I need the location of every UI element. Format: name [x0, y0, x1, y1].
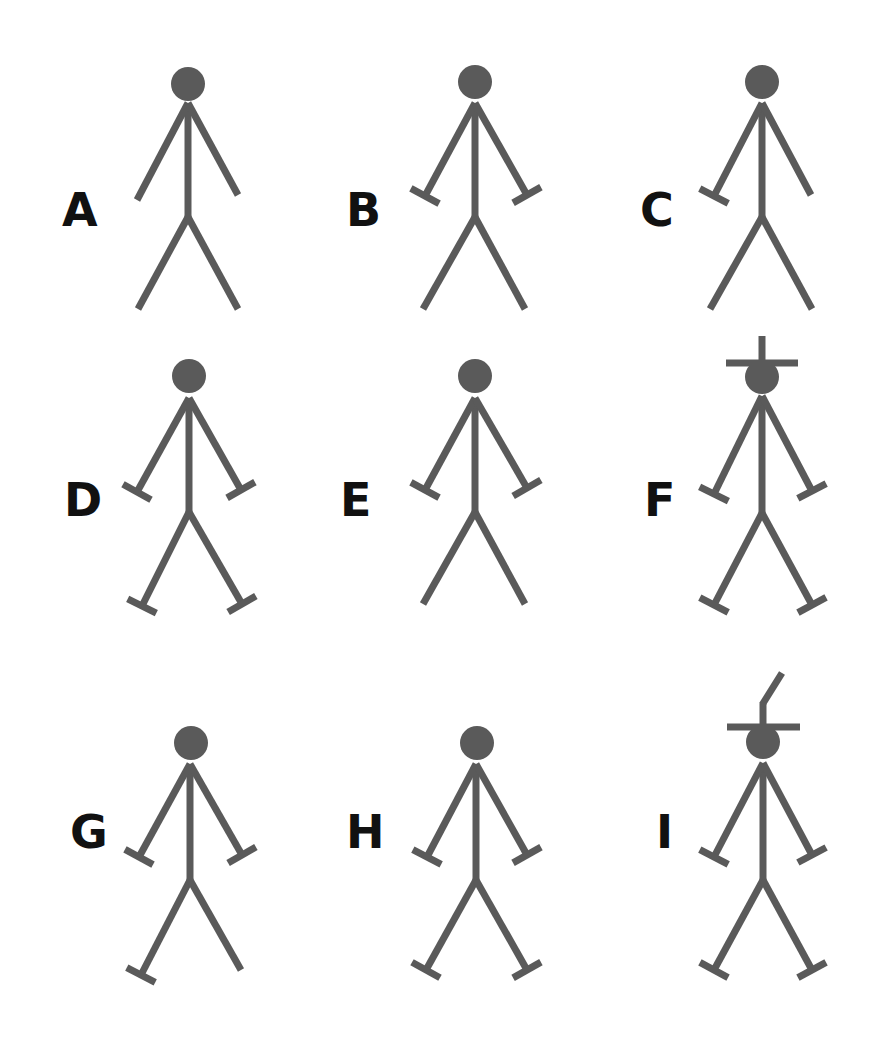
figure-label-d: D [64, 477, 102, 523]
right-arm [475, 103, 527, 195]
left-arm [714, 763, 763, 857]
right-leg [189, 512, 242, 604]
head [172, 359, 206, 393]
head [458, 65, 492, 99]
right-leg [762, 217, 812, 309]
left-leg [714, 880, 763, 970]
left-leg [142, 512, 189, 606]
left-arm [137, 103, 188, 200]
stick-figure-c [700, 65, 812, 309]
stick-figure-d [123, 359, 256, 613]
left-arm [427, 764, 476, 857]
stick-figure-h [412, 726, 541, 978]
figure-label-a: A [62, 187, 98, 233]
left-arm [714, 396, 762, 494]
stick-figure-b [411, 65, 541, 309]
figure-label-h: H [346, 809, 385, 855]
right-leg [762, 513, 812, 605]
figure-label-e: E [340, 477, 371, 523]
stick-figure-e [411, 359, 541, 604]
figure-label-c: C [640, 187, 674, 233]
right-leg [763, 880, 812, 970]
figure-label-f: F [644, 477, 675, 523]
left-arm [714, 103, 762, 196]
figures-svg [0, 0, 873, 1051]
figure-label-i: I [656, 809, 673, 855]
figure-label-g: G [70, 809, 108, 855]
stick-figure-g [125, 726, 256, 982]
right-arm [188, 103, 238, 195]
left-arm [425, 103, 475, 196]
right-leg [188, 217, 238, 309]
hat-feather [762, 673, 782, 705]
right-leg [475, 217, 525, 309]
head [171, 67, 205, 101]
stick-figure-a [137, 67, 238, 309]
right-arm [476, 764, 527, 855]
stick-figure-diagram: ABCDEFGHI [0, 0, 873, 1051]
left-leg [710, 217, 762, 309]
head [458, 359, 492, 393]
left-arm [137, 398, 189, 492]
left-leg [141, 880, 190, 975]
right-leg [190, 880, 241, 970]
left-leg [423, 512, 475, 604]
left-leg [138, 217, 188, 309]
head [745, 65, 779, 99]
left-leg [714, 513, 762, 605]
right-leg [475, 512, 525, 604]
head [174, 726, 208, 760]
stick-figure-i [700, 673, 826, 978]
left-arm [139, 764, 190, 857]
right-leg [476, 880, 527, 970]
right-arm [763, 763, 812, 855]
figure-label-b: B [346, 187, 381, 233]
left-leg [426, 880, 476, 970]
stick-figure-f [700, 336, 827, 613]
right-arm [762, 396, 812, 491]
right-arm [475, 398, 527, 488]
head [460, 726, 494, 760]
right-arm [762, 103, 811, 195]
left-arm [425, 398, 475, 490]
right-arm [190, 764, 242, 855]
right-arm [189, 398, 241, 490]
left-leg [423, 217, 475, 309]
